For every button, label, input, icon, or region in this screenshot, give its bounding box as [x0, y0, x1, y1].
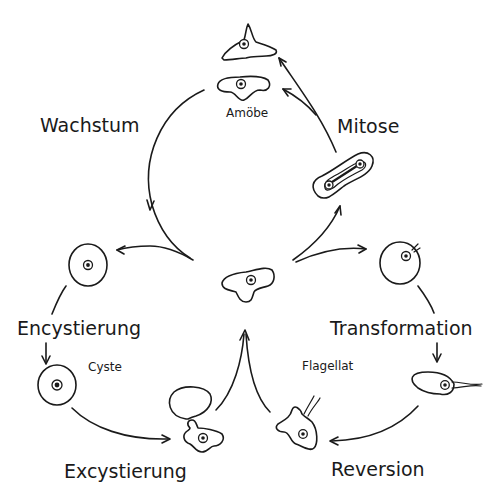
arrow-excyst-to-center: [216, 334, 244, 410]
amoeba-top-upper: [222, 24, 276, 60]
amoeba-center: [222, 268, 274, 302]
arc-encystierung-upper: [52, 286, 66, 314]
arrow-center-to-mitose: [293, 206, 340, 260]
label-cyste: Cyste: [88, 360, 122, 374]
life-cycle-diagram: Amöbe Mitose Wachstum Encystierung: [0, 0, 496, 499]
cyst: [38, 365, 76, 405]
label-flagellat: Flagellat: [302, 359, 354, 373]
arrow-flagellate-to-reversion: [332, 406, 418, 441]
round-cell-encyst: [69, 244, 107, 286]
label-transformation: Transformation: [329, 317, 473, 339]
mitosis-cell: [313, 153, 373, 198]
arrow-mitose-to-amoeba-lower: [283, 89, 316, 115]
amoeba-top-lower: [218, 76, 270, 100]
round-cell-transform: [380, 242, 420, 284]
flagellate: [412, 372, 482, 395]
arrow-cyst-to-excyst: [72, 408, 168, 439]
label-wachstum: Wachstum: [40, 114, 140, 136]
arc-transformation-upper: [418, 286, 434, 313]
excysting-cell: [170, 387, 224, 452]
label-encystierung: Encystierung: [17, 317, 141, 339]
arrow-mitose-to-amoeba-upper: [279, 58, 336, 152]
arrow-reversion-to-center: [246, 334, 270, 412]
label-excystierung: Excystierung: [64, 460, 187, 482]
label-amoebe: Amöbe: [226, 106, 268, 120]
arrow-wachstum: [149, 90, 204, 258]
label-reversion: Reversion: [331, 458, 425, 480]
reverting-amoeba: [276, 396, 320, 449]
label-mitose: Mitose: [337, 115, 399, 137]
